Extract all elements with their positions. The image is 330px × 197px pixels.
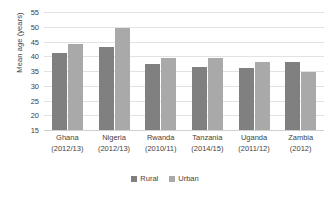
bar-uganda-rural: [239, 68, 254, 130]
bar-rwanda-rural: [145, 64, 160, 130]
bar-group: [231, 12, 278, 130]
y-axis-tick-label: 45: [31, 37, 39, 46]
category-period: (2012/13): [44, 144, 91, 155]
category-period: (2012/13): [91, 144, 138, 155]
x-axis-tick-label: Zambia(2012): [277, 133, 324, 154]
bar-nigeria-rural: [99, 47, 114, 130]
y-axis-tick-label: 25: [31, 96, 39, 105]
category-name: Zambia: [288, 133, 313, 142]
bar-group: [277, 12, 324, 130]
bar-ghana-rural: [52, 53, 67, 130]
y-axis-tick-label: 50: [31, 22, 39, 31]
category-period: (2010/11): [137, 144, 184, 155]
category-period: (2012): [277, 144, 324, 155]
category-name: Ghana: [56, 133, 79, 142]
y-axis-title: Mean age (years): [15, 0, 24, 98]
legend-label: Rural: [140, 174, 158, 183]
category-name: Uganda: [241, 133, 267, 142]
category-period: (2014/15): [184, 144, 231, 155]
category-name: Nigeria: [102, 133, 126, 142]
legend-swatch-icon: [131, 176, 137, 182]
bar-group: [44, 12, 91, 130]
x-axis-tick-label: Nigeria(2012/13): [91, 133, 138, 154]
y-axis-tick-label: 55: [31, 8, 39, 17]
bar-zambia-urban: [301, 72, 316, 130]
legend-swatch-icon: [169, 176, 175, 182]
legend-label: Urban: [178, 174, 198, 183]
y-axis-tick-label: 40: [31, 52, 39, 61]
bar-ghana-urban: [68, 44, 83, 130]
legend-item-urban[interactable]: Urban: [169, 174, 198, 183]
bar-tanzania-urban: [208, 58, 223, 130]
y-axis-tick-label: 20: [31, 111, 39, 120]
bars-layer: [44, 12, 324, 130]
bar-group: [91, 12, 138, 130]
x-axis-tick-label: Uganda(2011/12): [231, 133, 278, 154]
gridline: [44, 130, 324, 131]
x-axis-tick-labels: Ghana(2012/13)Nigeria(2012/13)Rwanda(201…: [44, 133, 324, 154]
bar-group: [137, 12, 184, 130]
bar-group: [184, 12, 231, 130]
bar-uganda-urban: [255, 62, 270, 130]
y-axis-tick-label: 15: [31, 126, 39, 135]
x-axis-tick-label: Tanzania(2014/15): [184, 133, 231, 154]
bar-zambia-rural: [285, 62, 300, 130]
bar-chart: Mean age (years) 555045403530252015 Ghan…: [0, 0, 330, 197]
y-axis-tick-label: 35: [31, 67, 39, 76]
category-name: Tanzania: [192, 133, 222, 142]
category-name: Rwanda: [147, 133, 175, 142]
bar-rwanda-urban: [161, 58, 176, 130]
chart-legend: RuralUrban: [0, 174, 330, 183]
x-axis-tick-label: Rwanda(2010/11): [137, 133, 184, 154]
plot-area: 555045403530252015: [44, 12, 324, 130]
legend-item-rural[interactable]: Rural: [131, 174, 158, 183]
bar-tanzania-rural: [192, 67, 207, 130]
category-period: (2011/12): [231, 144, 278, 155]
bar-nigeria-urban: [115, 28, 130, 130]
x-axis-tick-label: Ghana(2012/13): [44, 133, 91, 154]
y-axis-tick-label: 30: [31, 81, 39, 90]
